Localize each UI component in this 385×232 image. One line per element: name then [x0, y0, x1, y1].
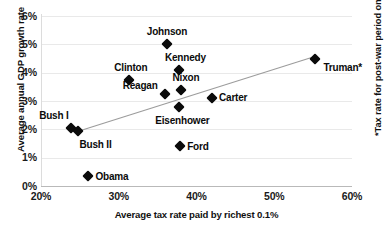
- x-tick-label: 50%: [251, 190, 297, 202]
- y-tick-label: 2%: [0, 124, 37, 135]
- data-point-label: Carter: [219, 92, 247, 103]
- y-tick-label: 6%: [0, 11, 37, 22]
- x-tick-label: 60%: [329, 190, 375, 202]
- data-point-label: Bush I: [39, 109, 68, 120]
- data-point-label: Bush II: [80, 138, 112, 149]
- y-axis-title: Average annual GDP growth rate: [15, 0, 26, 164]
- gridline-y: [41, 129, 352, 130]
- x-tick-label: 40%: [174, 190, 220, 202]
- y-tick-label: 1%: [0, 152, 37, 163]
- gridline-y: [41, 101, 352, 102]
- x-axis-title: Average tax rate paid by richest 0.1%: [41, 209, 352, 220]
- footnote-annotation: *Tax rate for post-war period only.: [373, 0, 383, 143]
- x-tick-label: 30%: [96, 190, 142, 202]
- y-tick-label: 4%: [0, 67, 37, 78]
- data-point-label: Reagan: [123, 79, 158, 90]
- data-point-label: Eisenhower: [155, 114, 209, 125]
- data-point-label: Obama: [95, 171, 128, 182]
- y-tick-label: 5%: [0, 39, 37, 50]
- data-point-label: Kennedy: [165, 51, 206, 62]
- data-point-label: Clinton: [114, 61, 147, 72]
- gridline-y: [41, 44, 352, 45]
- plot-area: [41, 14, 352, 186]
- y-axis-line: [41, 14, 42, 186]
- x-tick-label: 20%: [18, 190, 64, 202]
- data-point-label: Ford: [187, 141, 208, 152]
- data-point-label: Nixon: [173, 71, 200, 82]
- gridline-y: [41, 16, 352, 17]
- data-point-label: Truman*: [323, 61, 362, 72]
- scatter-chart-figure: Average annual GDP growth rate Average t…: [0, 0, 385, 232]
- y-tick-label: 3%: [0, 96, 37, 107]
- data-point-label: Johnson: [147, 26, 187, 37]
- x-axis-line: [41, 186, 352, 187]
- gridline-y: [41, 158, 352, 159]
